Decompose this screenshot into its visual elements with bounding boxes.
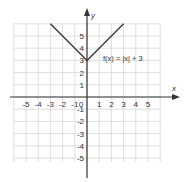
svg-text:-5: -5 [77,154,85,163]
x-axis-label: x [171,84,177,93]
equation-label: f(x) = |x| + 3 [103,54,143,63]
svg-text:5: 5 [80,32,85,41]
svg-text:-2: -2 [77,117,85,126]
axes [10,8,180,178]
svg-text:1: 1 [80,81,85,90]
y-axis-label: y [90,11,96,20]
coordinate-plane: -5-4-3-2-101234554321-1-2-3-4-5 x y f(x)… [0,0,186,182]
svg-text:1: 1 [97,100,102,109]
svg-text:2: 2 [80,69,85,78]
svg-text:-3: -3 [47,100,55,109]
svg-text:-1: -1 [77,105,85,114]
svg-text:3: 3 [121,100,126,109]
svg-text:4: 4 [80,44,85,53]
svg-text:-2: -2 [59,100,67,109]
svg-text:-5: -5 [22,100,30,109]
svg-text:2: 2 [109,100,114,109]
svg-text:4: 4 [134,100,139,109]
svg-text:-3: -3 [77,130,85,139]
svg-text:-4: -4 [35,100,43,109]
svg-text:5: 5 [146,100,151,109]
svg-text:-4: -4 [77,142,85,151]
